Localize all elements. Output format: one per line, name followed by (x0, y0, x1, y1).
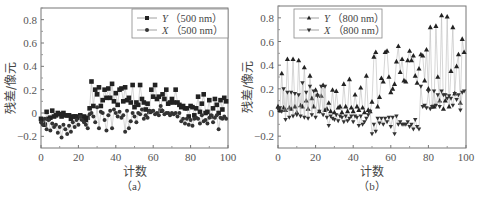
data-point (291, 114, 295, 118)
data-point (394, 114, 398, 118)
data-point (351, 120, 355, 124)
data-point (409, 58, 414, 63)
data-point (142, 117, 146, 121)
chart-panel-b: 020406080100−0.200.20.40.60.8计数残差/像元（b）Y… (240, 0, 480, 202)
data-point (304, 91, 308, 95)
x-tick-label: 20 (310, 151, 322, 163)
data-point (138, 83, 143, 88)
data-point (200, 101, 205, 106)
data-point (357, 124, 361, 128)
data-point (140, 108, 144, 112)
y-tick-label: −0.2 (17, 130, 37, 142)
data-point (298, 114, 302, 118)
data-point (302, 65, 307, 70)
data-point (377, 94, 382, 99)
data-point (435, 74, 440, 79)
x-tick-label: 60 (385, 151, 397, 163)
data-point (330, 87, 335, 92)
data-point (381, 123, 385, 127)
data-point (198, 122, 202, 126)
data-point (110, 82, 115, 87)
data-point (93, 120, 97, 124)
data-point (454, 64, 459, 69)
data-point (415, 80, 420, 85)
y-axis-title: 残差/像元 (4, 62, 18, 114)
data-point (123, 85, 128, 90)
data-point (342, 120, 346, 124)
data-point (127, 126, 131, 130)
data-point (50, 122, 54, 126)
data-point (424, 47, 429, 52)
data-point (50, 108, 55, 113)
data-point (460, 36, 465, 41)
data-point (101, 111, 105, 115)
data-point (86, 126, 90, 130)
data-point (131, 111, 135, 115)
y-tick-label: 0.2 (23, 84, 37, 96)
data-point (325, 116, 329, 120)
data-point (392, 132, 396, 136)
data-point (308, 85, 312, 89)
y-tick-label: 0.6 (23, 37, 37, 49)
data-point (121, 113, 125, 117)
legend-label: Y （500 nm） (162, 13, 222, 24)
data-point (390, 116, 394, 120)
data-point (220, 107, 225, 112)
data-point (114, 111, 118, 115)
y-tick-label: −0.2 (254, 130, 274, 142)
data-point (196, 94, 201, 99)
data-point (375, 117, 379, 121)
data-point (110, 126, 114, 130)
data-point (458, 100, 463, 105)
data-point (334, 88, 339, 93)
data-point (97, 85, 102, 90)
data-point (383, 117, 387, 121)
data-point (385, 120, 389, 124)
data-point (283, 118, 287, 122)
figure-caption-cropped (150, 192, 350, 202)
data-point (313, 116, 317, 120)
series-y (39, 79, 229, 127)
data-point (224, 99, 229, 104)
x-tick-label: 100 (220, 151, 237, 163)
data-point (336, 119, 340, 123)
data-point (177, 111, 181, 115)
data-point (43, 117, 47, 121)
data-point (91, 115, 95, 119)
data-point (360, 105, 365, 110)
data-point (116, 115, 120, 119)
data-point (289, 91, 293, 95)
data-point (89, 79, 94, 84)
data-point (377, 122, 381, 126)
data-point (306, 106, 311, 111)
data-point (153, 83, 158, 88)
data-point (281, 87, 285, 91)
data-point (433, 23, 438, 28)
legend-marker (145, 28, 149, 32)
legend-label: Y （800 nm） (324, 13, 384, 24)
data-point (134, 120, 138, 124)
data-point (112, 108, 116, 112)
data-point (209, 113, 213, 117)
data-point (41, 123, 45, 127)
data-point (327, 124, 331, 128)
y-axis-title: 残差/像元 (241, 61, 255, 113)
data-point (428, 25, 433, 30)
data-point (190, 124, 194, 128)
data-point (369, 99, 374, 104)
legend: Y （800 nm）X （800 nm） (294, 9, 385, 38)
data-point (181, 117, 185, 121)
data-point (456, 52, 461, 57)
x-tick-label: 40 (348, 151, 360, 163)
x-axis-title: 计数 (360, 164, 384, 179)
data-point (164, 87, 169, 92)
data-point (157, 113, 161, 117)
data-point (54, 123, 58, 127)
data-point (200, 113, 204, 117)
data-point (205, 110, 210, 115)
data-point (196, 117, 200, 121)
data-point (407, 48, 412, 53)
data-point (58, 125, 62, 129)
legend-label: X （800 nm） (323, 25, 385, 36)
data-point (174, 111, 178, 115)
